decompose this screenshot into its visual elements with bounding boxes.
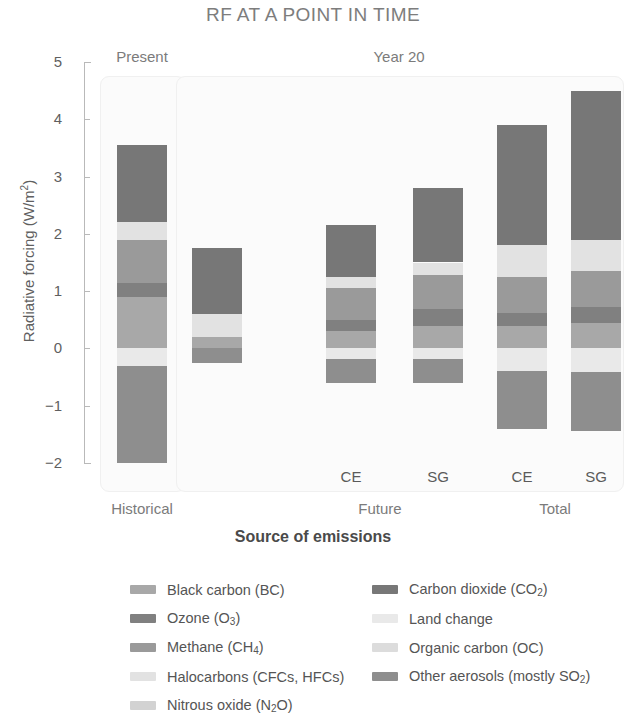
plot-area: Radiative forcing (W/m2) 543210−1−2 Pres… <box>0 0 626 520</box>
bar-segment-land <box>497 348 547 371</box>
bar-segment-ch4 <box>413 275 463 309</box>
y-tick <box>84 291 90 292</box>
y-tick-label-wrap: −1 <box>0 406 84 407</box>
bar-segment-halo <box>117 222 167 239</box>
legend-item-aero[interactable]: Other aerosols (mostly SO2) <box>372 662 626 691</box>
y-tick-label-wrap: 0 <box>0 348 84 349</box>
bar-total-sg <box>571 62 621 463</box>
legend-swatch-n2o-icon <box>130 701 156 710</box>
bar-sublabel-future-ce: CE <box>312 468 390 485</box>
legend-swatch-co2-icon <box>372 585 398 594</box>
bar-segment-bc <box>192 337 242 348</box>
bar-segment-o3 <box>413 309 463 325</box>
panel-header-year-20: Year 20 <box>176 48 622 65</box>
bar-segment-bc <box>497 326 547 349</box>
y-tick-label: 4 <box>18 111 62 126</box>
y-tick-label: −1 <box>18 398 62 413</box>
chart-root: RF AT A POINT IN TIME Radiative forcing … <box>0 0 626 728</box>
y-tick <box>84 177 90 178</box>
legend-item-n2o[interactable]: Nitrous oxide (N2O) <box>130 691 380 720</box>
bar-segment-bc <box>571 323 621 349</box>
y-tick <box>84 119 90 120</box>
bar-sublabel-future-sg: SG <box>399 468 477 485</box>
bar-segment-aero <box>497 371 547 428</box>
bar-sublabel-total-sg: SG <box>557 468 626 485</box>
y-tick-label: 2 <box>18 226 62 241</box>
legend-swatch-ch4-icon <box>130 643 156 652</box>
legend-swatch-o3-icon <box>130 614 156 623</box>
bar-segment-aero <box>326 359 376 383</box>
bar-segment-halo <box>497 245 547 277</box>
bar-segment-o3 <box>571 307 621 323</box>
bar-future-sg <box>413 62 463 463</box>
bar-year20-present <box>192 62 242 463</box>
bar-segment-o3 <box>497 313 547 326</box>
legend-item-oc[interactable]: Organic carbon (OC) <box>372 633 626 662</box>
legend-column-left: Black carbon (BC)Ozone (O3)Methane (CH4)… <box>130 575 380 720</box>
legend-item-co2[interactable]: Carbon dioxide (CO2) <box>372 575 626 604</box>
bar-segment-co2 <box>497 125 547 245</box>
y-tick <box>84 463 90 464</box>
legend-item-halo[interactable]: Halocarbons (CFCs, HFCs) <box>130 662 380 691</box>
legend-label-n2o: Nitrous oxide (N2O) <box>167 697 293 714</box>
y-tick-label: 1 <box>18 283 62 298</box>
bar-segment-land <box>326 348 376 358</box>
y-tick-label: 3 <box>18 169 62 184</box>
bar-segment-land <box>571 348 621 372</box>
legend-label-bc: Black carbon (BC) <box>167 582 285 598</box>
y-tick <box>84 348 90 349</box>
group-label-historical: Historical <box>100 500 184 517</box>
bar-segment-bc <box>117 297 167 349</box>
legend-item-o3[interactable]: Ozone (O3) <box>130 604 380 633</box>
bar-segment-aero <box>117 366 167 463</box>
bar-segment-co2 <box>326 225 376 277</box>
bar-segment-aero <box>413 359 463 383</box>
legend-label-land: Land change <box>409 611 493 627</box>
bar-sublabel-total-ce: CE <box>483 468 561 485</box>
bar-segment-halo <box>571 240 621 272</box>
bar-segment-o3 <box>117 283 167 297</box>
bar-historical <box>117 62 167 463</box>
y-tick-label-wrap: 5 <box>0 62 84 63</box>
y-axis-line <box>84 62 85 463</box>
bar-future-ce <box>326 62 376 463</box>
legend-label-halo: Halocarbons (CFCs, HFCs) <box>167 669 344 685</box>
y-tick <box>84 406 90 407</box>
legend-swatch-aero-icon <box>372 672 398 681</box>
bar-segment-o3 <box>326 320 376 331</box>
y-tick <box>84 62 90 63</box>
bar-segment-bc <box>413 326 463 349</box>
y-tick-label-wrap: 3 <box>0 177 84 178</box>
panel-year-20 <box>176 76 624 492</box>
legend-label-oc: Organic carbon (OC) <box>409 640 544 656</box>
y-tick <box>84 234 90 235</box>
bar-segment-ch4 <box>571 271 621 307</box>
bar-segment-co2 <box>192 248 242 314</box>
x-axis-label: Source of emissions <box>0 528 626 546</box>
y-tick-label: 5 <box>18 54 62 69</box>
bar-total-ce <box>497 62 547 463</box>
y-tick-label-wrap: 2 <box>0 234 84 235</box>
legend-item-bc[interactable]: Black carbon (BC) <box>130 575 380 604</box>
legend-item-land[interactable]: Land change <box>372 604 626 633</box>
bar-segment-halo <box>192 314 242 337</box>
group-label-future: Future <box>300 500 460 517</box>
bar-segment-halo <box>413 263 463 276</box>
legend-item-ch4[interactable]: Methane (CH4) <box>130 633 380 662</box>
legend-label-aero: Other aerosols (mostly SO2) <box>409 668 590 685</box>
group-label-total: Total <box>480 500 626 517</box>
bar-segment-aero <box>571 372 621 431</box>
bar-segment-ch4 <box>497 277 547 313</box>
legend-swatch-land-icon <box>372 614 398 623</box>
bar-segment-bc <box>326 331 376 348</box>
legend-label-co2: Carbon dioxide (CO2) <box>409 581 548 598</box>
bar-segment-land <box>117 348 167 365</box>
legend-label-o3: Ozone (O3) <box>167 610 240 627</box>
y-tick-label: 0 <box>18 340 62 355</box>
bar-segment-co2 <box>413 188 463 262</box>
bar-segment-aero <box>192 348 242 362</box>
legend-column-right: Carbon dioxide (CO2)Land changeOrganic c… <box>372 575 626 691</box>
bar-segment-halo <box>326 277 376 288</box>
y-tick-label-wrap: 4 <box>0 119 84 120</box>
legend-label-ch4: Methane (CH4) <box>167 639 264 656</box>
